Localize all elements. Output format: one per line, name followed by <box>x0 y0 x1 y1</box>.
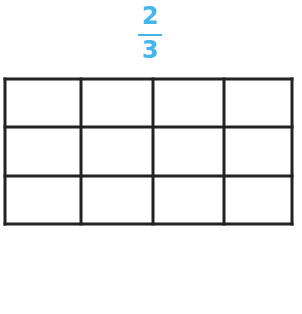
grid-cell <box>153 79 224 127</box>
grid-cell <box>81 79 153 127</box>
grid-cell <box>5 176 81 224</box>
grid-cell <box>5 79 81 127</box>
grid-cell <box>153 127 224 176</box>
grid-cell <box>224 79 292 127</box>
grid-cell <box>5 127 81 176</box>
grid-cell <box>81 127 153 176</box>
grid-cell <box>224 127 292 176</box>
grid-cell <box>153 176 224 224</box>
rectangle-grid-3x4 <box>0 0 302 314</box>
grid-cell <box>224 176 292 224</box>
grid-cell <box>81 176 153 224</box>
